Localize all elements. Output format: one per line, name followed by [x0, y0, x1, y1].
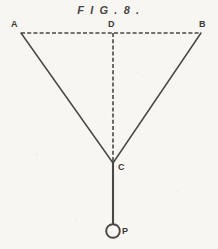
point-label-d: D [108, 20, 115, 29]
diagram-canvas [0, 0, 218, 249]
point-label-c: C [118, 163, 125, 172]
segment-ray-a-c [21, 33, 113, 163]
point-label-b: B [199, 20, 206, 29]
segment-ray-b-c [113, 33, 201, 163]
point-label-a: A [11, 20, 18, 29]
point-label-p: P [122, 227, 128, 236]
marker-p-circle [106, 224, 120, 238]
figure-diagram: F I G . 8 . A B D C P [0, 0, 218, 249]
